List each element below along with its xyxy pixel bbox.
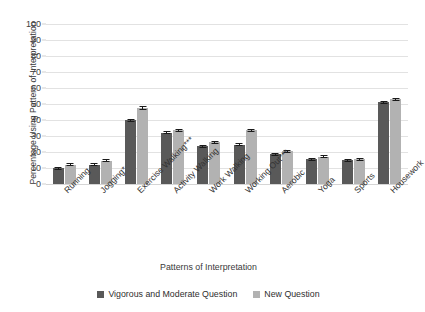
chart-legend: Vigorous and Moderate QuestionNew Questi…	[0, 289, 417, 299]
bar-slot	[125, 24, 136, 184]
error-bar	[67, 163, 74, 166]
error-bar-cap	[103, 161, 110, 162]
bar[interactable]	[53, 168, 64, 184]
error-bar	[199, 145, 206, 148]
error-bar-cap	[248, 129, 255, 130]
bar[interactable]	[89, 165, 100, 184]
error-bar-cap	[127, 119, 134, 120]
x-tick-cell: Running	[46, 186, 82, 246]
error-bar-cap	[175, 131, 182, 132]
error-bar-cap	[67, 165, 74, 166]
error-bar	[91, 163, 98, 166]
error-bar-cap	[392, 98, 399, 99]
y-tick-label: 100	[26, 19, 41, 29]
error-bar-cap	[356, 160, 363, 161]
y-tick-label: 20	[31, 147, 41, 157]
error-bar-cap	[211, 143, 218, 144]
bar-slot	[65, 24, 76, 184]
error-bar	[139, 106, 146, 110]
legend-label: Vigorous and Moderate Question	[108, 289, 237, 299]
error-bar-cap	[380, 101, 387, 102]
bar[interactable]	[306, 159, 317, 184]
error-bar	[380, 101, 387, 104]
bar-group	[372, 24, 408, 184]
error-bar-cap	[392, 100, 399, 101]
bar-group	[82, 24, 118, 184]
bar[interactable]	[390, 99, 401, 184]
bar[interactable]	[342, 160, 353, 184]
legend-item[interactable]: Vigorous and Moderate Question	[97, 289, 237, 299]
bar-slot	[89, 24, 100, 184]
error-bar	[103, 159, 110, 162]
bar[interactable]	[125, 120, 136, 184]
error-bar	[163, 131, 170, 134]
error-bar	[248, 129, 255, 132]
error-bar-cap	[127, 121, 134, 122]
error-bar-cap	[320, 157, 327, 158]
bar-slot	[378, 24, 389, 184]
plot-area: 0102030405060708090100	[46, 24, 408, 184]
x-tick-cell: Activity Walking	[155, 186, 191, 246]
error-bar	[308, 158, 315, 161]
error-bar	[211, 141, 218, 144]
error-bar-cap	[103, 159, 110, 160]
bar-slot	[390, 24, 401, 184]
y-tick-label: 90	[31, 35, 41, 45]
error-bar-cap	[344, 161, 351, 162]
error-bar-cap	[163, 133, 170, 134]
error-bar-cap	[199, 147, 206, 148]
bars-layer	[46, 24, 408, 184]
error-bar	[236, 143, 243, 146]
error-bar-cap	[91, 165, 98, 166]
error-bar-cap	[163, 131, 170, 132]
bar[interactable]	[378, 102, 389, 184]
error-bar-cap	[308, 158, 315, 159]
bar-slot	[101, 24, 112, 184]
y-tick-label: 50	[31, 99, 41, 109]
bar-group	[118, 24, 154, 184]
error-bar	[320, 155, 327, 158]
error-bar-cap	[139, 106, 146, 107]
error-bar-cap	[236, 145, 243, 146]
error-bar-cap	[139, 109, 146, 110]
x-tick-cell: Yoga	[299, 186, 335, 246]
error-bar-cap	[211, 141, 218, 142]
error-bar	[356, 158, 363, 161]
error-bar-cap	[344, 159, 351, 160]
error-bar	[344, 159, 351, 162]
x-tick-cell: Exercise Walking***	[118, 186, 154, 246]
bar-slot	[342, 24, 353, 184]
error-bar-cap	[236, 143, 243, 144]
legend-swatch	[97, 291, 104, 298]
y-tick-label: 10	[31, 163, 41, 173]
y-tick-label: 30	[31, 131, 41, 141]
error-bar-cap	[320, 155, 327, 156]
bar-group	[299, 24, 335, 184]
bar-slot	[53, 24, 64, 184]
bar-group	[46, 24, 82, 184]
y-tick-label: 80	[31, 51, 41, 61]
error-bar-cap	[55, 169, 62, 170]
error-bar-cap	[91, 163, 98, 164]
x-axis-title: Patterns of Interpretation	[0, 262, 417, 272]
bar[interactable]	[137, 108, 148, 184]
x-tick-cell: Aerobic	[263, 186, 299, 246]
error-bar-cap	[380, 103, 387, 104]
error-bar	[392, 98, 399, 101]
bar-slot	[318, 24, 329, 184]
bar-slot	[354, 24, 365, 184]
legend-label: New Question	[264, 289, 319, 299]
x-tick-cell: Working Out***	[227, 186, 263, 246]
bar-slot	[137, 24, 148, 184]
x-tick-cell: Work Walking	[191, 186, 227, 246]
y-tick-label: 0	[36, 179, 41, 189]
error-bar-cap	[356, 158, 363, 159]
bar-group	[336, 24, 372, 184]
error-bar-cap	[248, 131, 255, 132]
legend-item[interactable]: New Question	[253, 289, 319, 299]
y-tick-label: 70	[31, 67, 41, 77]
y-tick-label: 40	[31, 115, 41, 125]
error-bar-cap	[175, 129, 182, 130]
error-bar-cap	[55, 167, 62, 168]
